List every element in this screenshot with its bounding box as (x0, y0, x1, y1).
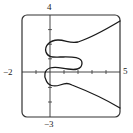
y-min-label: −3 (44, 120, 54, 129)
x-min-label: −2 (3, 68, 13, 77)
x-max-label: 5 (123, 67, 128, 76)
plot-area (0, 0, 133, 133)
plotted-curve (45, 21, 120, 108)
viewing-window-frame (22, 15, 120, 117)
y-max-label: 4 (47, 3, 52, 12)
